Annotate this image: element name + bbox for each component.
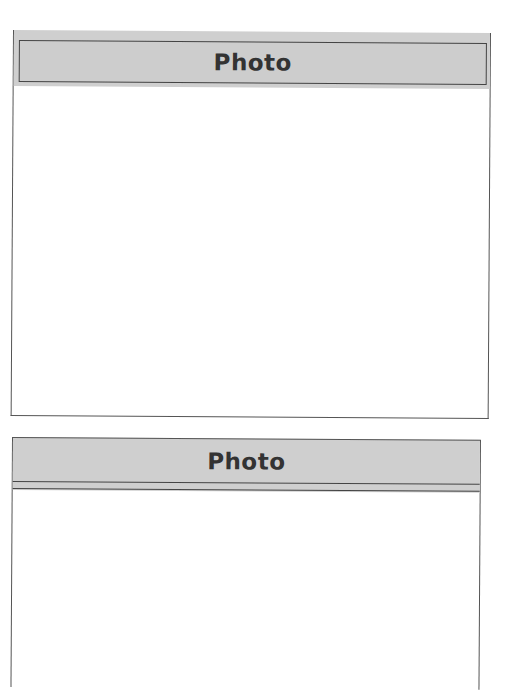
photo-frame-2-title-row: Photo (13, 438, 480, 485)
photo-frame-1-header: Photo (14, 30, 490, 89)
photo-frame-1-title-box: Photo (19, 40, 487, 85)
photo-frame-2: Photo (10, 437, 481, 690)
photo-frame-2-header: Photo (13, 437, 480, 493)
photo-frame-1-title: Photo (214, 49, 292, 75)
photo-frame-1: Photo (11, 30, 491, 419)
photo-frame-2-divider (13, 488, 480, 492)
photo-frame-2-title: Photo (207, 448, 285, 474)
